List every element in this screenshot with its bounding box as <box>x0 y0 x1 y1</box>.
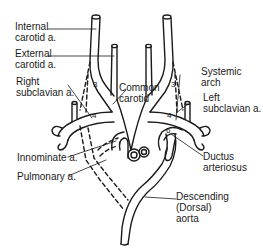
arch-number-left-3: 3 <box>171 80 175 89</box>
arch-number-left-4: 4 <box>167 111 171 120</box>
arch-number-left-6: 6 <box>166 126 170 135</box>
arch-number-right-3: 3 <box>93 80 97 89</box>
label-systemic-arch: Systemic arch <box>201 66 242 88</box>
left-arch-4 <box>150 112 204 136</box>
label-innominate: Innominate a. <box>17 152 78 163</box>
label-ductus-arteriosus: Ductus arteriosus <box>203 151 247 173</box>
label-left-subclavian: Left subclavian a. <box>203 92 261 114</box>
right-external-carotid-vessel <box>111 44 117 100</box>
right-internal-carotid-vessel <box>90 15 114 112</box>
label-descending-aorta: Descending (Dorsal) aorta <box>176 191 229 224</box>
label-common-carotid: Common carotid <box>119 82 160 104</box>
right-subclavian-vessel <box>52 102 77 151</box>
arch-number-right-4: 4 <box>92 111 96 120</box>
aortic-arch-diagram: Internal carotid a. External carotid a. … <box>0 0 263 250</box>
label-external-carotid: External carotid a. <box>15 48 56 70</box>
label-pulmonary: Pulmonary a. <box>17 171 76 182</box>
label-right-subclavian: Right subclavian a. <box>16 76 74 98</box>
common-carotid-junction <box>117 100 146 150</box>
right-arch-4 <box>58 112 112 136</box>
label-internal-carotid: Internal carotid a. <box>15 21 56 43</box>
